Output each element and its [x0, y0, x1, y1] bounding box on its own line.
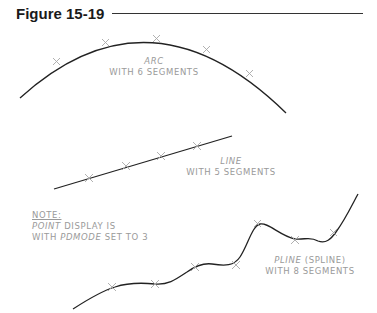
- point-marker-icon: [53, 58, 60, 65]
- point-marker-icon: [291, 236, 299, 244]
- point-marker-icon: [232, 261, 240, 269]
- note-pdmode-term: PDMODE: [60, 232, 101, 242]
- pline-label-desc: WITH 8 SEGMENTS: [256, 266, 364, 277]
- pline-label-paren: (SPLINE): [305, 255, 346, 265]
- pline-label-name: PLINE: [274, 255, 301, 265]
- note-block: NOTE: POINT DISPLAY IS WITH PDMODE SET T…: [32, 210, 148, 243]
- arc-label-name: ARC: [94, 56, 214, 67]
- note-point-term: POINT: [32, 221, 61, 231]
- note-line-2-pre: WITH: [32, 232, 57, 242]
- line-label-name: LINE: [176, 156, 286, 167]
- pline-label-line-1: PLINE (SPLINE): [256, 255, 364, 266]
- line-label: LINE WITH 5 SEGMENTS: [176, 156, 286, 178]
- arc-label-desc: WITH 6 SEGMENTS: [94, 67, 214, 78]
- arc-label: ARC WITH 6 SEGMENTS: [94, 56, 214, 78]
- point-marker-icon: [153, 35, 160, 42]
- note-line-1-rest: DISPLAY IS: [64, 221, 115, 231]
- note-heading: NOTE:: [32, 210, 148, 221]
- point-marker-icon: [191, 263, 199, 271]
- note-line-2-rest: SET TO 3: [105, 232, 148, 242]
- line-label-desc: WITH 5 SEGMENTS: [176, 167, 286, 178]
- note-line-2: WITH PDMODE SET TO 3: [32, 232, 148, 243]
- point-marker-icon: [122, 162, 130, 170]
- pline-label: PLINE (SPLINE) WITH 8 SEGMENTS: [256, 255, 364, 277]
- point-marker-icon: [246, 70, 253, 77]
- point-marker-icon: [203, 46, 210, 53]
- note-line-1: POINT DISPLAY IS: [32, 221, 148, 232]
- point-marker-icon: [102, 39, 109, 46]
